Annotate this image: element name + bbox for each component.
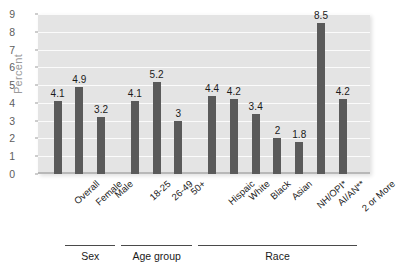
bar — [339, 99, 347, 174]
bar-value-label: 5.2 — [150, 69, 164, 80]
x-axis-category-label: Black — [268, 178, 293, 202]
y-axis-tick-label: 6 — [0, 61, 15, 73]
bar — [208, 96, 216, 174]
y-axis-tick-label: 9 — [0, 8, 15, 20]
bar-value-label: 2 — [275, 125, 281, 136]
y-axis-tick-mark — [35, 14, 38, 15]
x-axis-category-label: 50+ — [189, 178, 208, 197]
bar-value-label: 3 — [176, 108, 182, 119]
y-axis-tick-mark — [35, 156, 38, 157]
bar-value-label: 4.4 — [205, 83, 219, 94]
y-axis-tick-label: 7 — [0, 44, 15, 56]
bar — [252, 114, 260, 174]
y-axis-tick-mark — [35, 85, 38, 86]
bar — [54, 101, 62, 174]
bar-value-label: 8.5 — [314, 10, 328, 21]
x-axis-category-label: 18-25 — [147, 178, 172, 202]
bar — [97, 117, 105, 174]
bar — [273, 138, 281, 174]
bar-value-label: 3.2 — [94, 104, 108, 115]
x-axis-category-label: Asian — [290, 178, 315, 202]
bar — [317, 23, 325, 174]
y-axis-tick-mark — [35, 174, 38, 175]
bar-value-label: 3.4 — [249, 101, 263, 112]
bar — [174, 121, 182, 174]
bar — [295, 142, 303, 174]
group-rule — [121, 245, 193, 246]
y-axis-tick-mark — [35, 102, 38, 103]
bar-value-label: 4.9 — [72, 74, 86, 85]
bar-value-label: 4.1 — [50, 88, 64, 99]
y-axis-tick-label: 2 — [0, 132, 15, 144]
y-axis-tick-mark — [35, 49, 38, 50]
bar-value-label: 4.2 — [336, 86, 350, 97]
y-axis-tick-mark — [35, 120, 38, 121]
y-axis-tick-label: 8 — [0, 26, 15, 38]
y-axis-tick-label: 1 — [0, 150, 15, 162]
bar — [230, 99, 238, 174]
y-axis-tick-mark — [35, 67, 38, 68]
group-rule — [198, 245, 357, 246]
group-rule — [65, 245, 115, 246]
y-axis-tick-label: 5 — [0, 79, 15, 91]
bar — [153, 82, 161, 174]
bar — [131, 101, 139, 174]
y-axis-tick-mark — [35, 138, 38, 139]
bar — [75, 87, 83, 174]
y-axis-tick-label: 0 — [0, 168, 15, 180]
bar-value-label: 4.2 — [227, 86, 241, 97]
y-axis-tick-label: 3 — [0, 115, 15, 127]
group-label: Sex — [81, 250, 99, 262]
bar-value-label: 1.8 — [292, 129, 306, 140]
y-axis-tick-mark — [35, 31, 38, 32]
group-label: Race — [265, 250, 290, 262]
bar-value-label: 4.1 — [128, 88, 142, 99]
y-axis-tick-label: 4 — [0, 97, 15, 109]
group-label: Age group — [132, 250, 180, 262]
